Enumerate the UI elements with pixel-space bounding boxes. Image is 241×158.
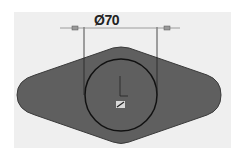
- arrow-handle-left[interactable]: [72, 26, 78, 30]
- origin-icon[interactable]: [116, 101, 125, 108]
- rounded-diamond-shape[interactable]: [17, 47, 221, 144]
- sketch-drawing: [0, 0, 241, 158]
- arrow-handle-right[interactable]: [164, 26, 170, 30]
- diameter-dimension-label[interactable]: Ø70: [94, 12, 119, 28]
